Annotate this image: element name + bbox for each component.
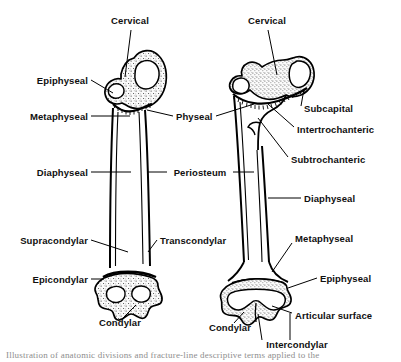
label-subtrochanteric: Subtrochanteric <box>291 155 365 165</box>
label-physeal: Physeal <box>176 112 213 122</box>
leader-transcondylar <box>148 240 157 252</box>
leader-subtrochanteric <box>258 118 288 157</box>
label-diaphyseal-right: Diaphyseal <box>304 194 355 204</box>
figure-caption: Illustration of anatomic divisions and f… <box>6 352 319 360</box>
figure-canvas: Cervical Epiphyseal Metaphyseal Diaphyse… <box>0 0 401 362</box>
left-femur-illustration <box>95 51 166 321</box>
label-cervical-right: Cervical <box>248 16 286 26</box>
label-epicondylar: Epicondylar <box>33 275 88 285</box>
leader-physeal-left <box>147 110 173 116</box>
label-condylar-right: Condylar <box>209 323 251 333</box>
label-metaphyseal-left: Metaphyseal <box>30 112 88 122</box>
leader-metaphyseal-right <box>272 243 292 272</box>
leader-cervical-left <box>125 30 131 77</box>
label-intercondylar: Intercondylar <box>266 340 327 350</box>
label-subcapital: Subcapital <box>304 104 353 114</box>
leader-physeal-right <box>216 104 254 116</box>
label-epiphyseal-left: Epiphyseal <box>37 76 88 86</box>
leader-epiphyseal-left <box>91 80 113 93</box>
bone-diagram-artwork <box>0 0 401 362</box>
leader-cervical-right <box>268 30 277 75</box>
leader-lines <box>91 30 317 340</box>
leader-intercondylar <box>258 314 262 340</box>
label-cervical-left: Cervical <box>111 16 149 26</box>
label-diaphyseal-left: Diaphyseal <box>37 168 88 178</box>
right-femur-illustration <box>221 57 315 325</box>
leader-intertrochanteric <box>268 104 294 127</box>
label-articular-surface: Articular surface <box>295 311 372 321</box>
label-supracondylar: Supracondylar <box>20 236 88 246</box>
label-condylar-left: Condylar <box>99 318 141 328</box>
leader-articular-surface <box>272 306 292 313</box>
label-epiphyseal-right: Epiphyseal <box>320 274 371 284</box>
label-metaphyseal-right: Metaphyseal <box>295 234 353 244</box>
leader-supracondylar <box>91 240 128 252</box>
label-intertrochanteric: Intertrochanteric <box>297 125 374 135</box>
figure-caption-strip: Illustration of anatomic divisions and f… <box>0 352 401 362</box>
label-periosteum: Periosteum <box>174 168 227 178</box>
label-transcondylar: Transcondylar <box>160 236 226 246</box>
leader-epiphyseal-right <box>288 278 317 288</box>
